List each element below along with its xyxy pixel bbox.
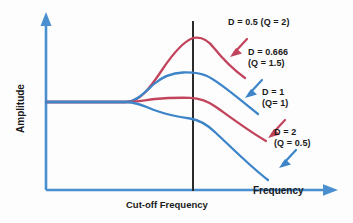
annotation-arrow-d-0-666 [230, 39, 247, 57]
series-label-d-2-line1: D = 2 [274, 127, 311, 138]
cutoff-frequency-label: Cut-off Frequency [126, 199, 208, 210]
curve-d-0-666 [46, 72, 258, 114]
series-label-d-2-line2: (Q = 0.5) [274, 138, 311, 149]
x-axis-label: Frequency [253, 185, 304, 196]
series-label-d-1-line2: (Q= 1) [262, 98, 288, 109]
curve-d-2 [46, 102, 268, 180]
series-label-d-1: D = 1 (Q= 1) [262, 87, 288, 109]
series-label-d-0-666-line2: (Q = 1.5) [248, 58, 288, 69]
annotation-arrow-d-2-blue-pointer [279, 150, 296, 168]
curve-d-1 [46, 98, 266, 141]
frequency-response-chart: Amplitude Frequency Cut-off Frequency D … [0, 0, 353, 223]
series-label-d-0-5: D = 0.5 (Q = 2) [228, 17, 290, 28]
series-label-d-0-666-line1: D = 0.666 [248, 47, 288, 58]
series-label-d-0-666: D = 0.666 (Q = 1.5) [248, 47, 288, 69]
y-axis-arrowhead-icon [41, 12, 52, 26]
series-label-d-1-line1: D = 1 [262, 87, 288, 98]
series-label-d-0-5-line1: D = 0.5 (Q = 2) [228, 17, 290, 28]
y-axis-label: Amplitude [15, 74, 26, 144]
annotation-arrow-d-1 [245, 80, 262, 98]
series-label-d-2: D = 2 (Q = 0.5) [274, 127, 311, 149]
x-axis-arrowhead-icon [323, 184, 338, 196]
